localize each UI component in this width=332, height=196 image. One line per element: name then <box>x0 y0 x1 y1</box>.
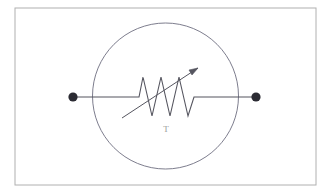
left-terminal-node <box>68 92 77 101</box>
circuit-diagram-canvas: T <box>0 0 332 196</box>
figure-root: T <box>0 0 332 196</box>
resistor-label: T <box>163 124 169 134</box>
right-terminal-node <box>251 92 260 101</box>
